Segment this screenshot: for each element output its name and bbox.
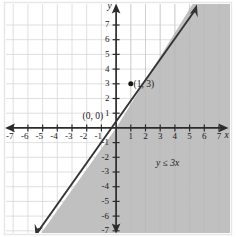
y-tick-label--6: -6 <box>102 212 110 221</box>
x-tick-label--2: -2 <box>80 132 88 141</box>
y-tick-label-1: 1 <box>105 109 110 118</box>
y-tick-label-5: 5 <box>105 50 110 59</box>
point-label-1-3: (1, 3) <box>134 79 155 89</box>
inequality-label: y ≤ 3x <box>156 158 179 168</box>
x-tick-label-1: 1 <box>129 132 134 141</box>
x-tick-label--5: -5 <box>36 132 44 141</box>
origin-label: (0, 0) <box>83 111 104 121</box>
x-tick-label-4: 4 <box>173 132 178 141</box>
y-tick-label-6: 6 <box>105 35 110 44</box>
y-tick-label--2: -2 <box>102 153 110 162</box>
y-tick-label--5: -5 <box>102 197 110 206</box>
y-axis-label: y <box>108 2 112 12</box>
x-tick-label--6: -6 <box>21 132 29 141</box>
x-tick-label-2: 2 <box>143 132 148 141</box>
x-tick-label-3: 3 <box>158 132 163 141</box>
y-tick-label--4: -4 <box>102 182 110 191</box>
x-tick-label--4: -4 <box>50 132 58 141</box>
x-tick-label-7: 7 <box>217 132 222 141</box>
y-tick-label--3: -3 <box>102 167 110 176</box>
x-tick-label--7: -7 <box>6 132 14 141</box>
y-tick-label-2: 2 <box>105 94 110 103</box>
x-tick-label--3: -3 <box>65 132 73 141</box>
y-tick-label--7: -7 <box>102 226 110 235</box>
x-tick-label-6: 6 <box>202 132 207 141</box>
y-tick-label-4: 4 <box>105 65 110 74</box>
y-tick-label-7: 7 <box>105 20 110 29</box>
x-tick-label-5: 5 <box>187 132 192 141</box>
graph-canvas <box>0 0 236 237</box>
y-tick-label-3: 3 <box>105 79 110 88</box>
x-axis-label: x <box>225 131 229 141</box>
y-tick-label--1: -1 <box>102 138 110 147</box>
coordinate-plane-graph: -7 -6 -5 -4 -3 -2 -1 1 2 3 4 5 6 7 7 6 5… <box>0 0 236 237</box>
